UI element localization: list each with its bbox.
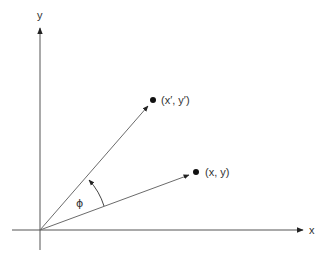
point-original-label: (x, y) (205, 166, 229, 178)
vector-rotated (40, 106, 148, 230)
rotation-diagram: x y (x, y) (x′, y′) ϕ (0, 0, 331, 262)
point-rotated (150, 97, 156, 103)
y-axis-label: y (37, 9, 43, 21)
point-original (193, 169, 199, 175)
vector-original (40, 175, 189, 230)
diagram-svg: x y (x, y) (x′, y′) ϕ (0, 0, 331, 262)
x-axis-label: x (309, 224, 315, 236)
point-rotated-label: (x′, y′) (161, 94, 190, 106)
angle-label: ϕ (76, 197, 83, 210)
angle-arc (89, 180, 104, 206)
